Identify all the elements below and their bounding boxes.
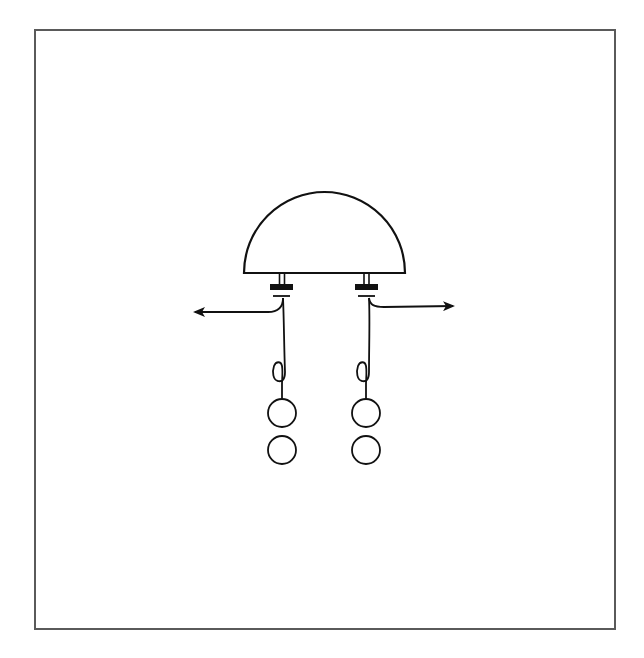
right-vertical-wire [357,298,369,399]
right-circle-bottom [352,436,380,464]
right-arrow-wire [369,298,453,307]
left-arrow-wire [195,298,283,312]
right-circle-top [352,399,380,427]
right-connector [355,274,378,296]
left-circle-top [268,399,296,427]
dome-shape [244,192,405,273]
left-circle-bottom [268,436,296,464]
left-connector [270,274,293,296]
left-vertical-wire [273,298,285,399]
diagram-canvas [0,0,644,658]
